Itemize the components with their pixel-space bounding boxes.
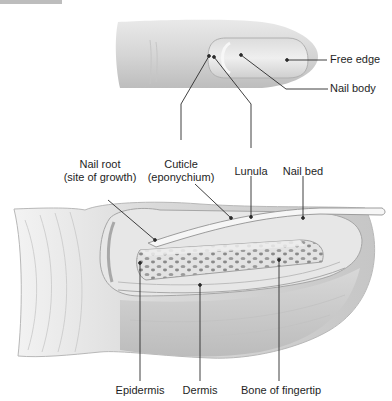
label-cuticle-line2: (eponychium) xyxy=(141,171,221,184)
label-dermis: Dermis xyxy=(176,384,224,397)
fingertip-cross-section xyxy=(14,202,385,358)
fingertip-top-view xyxy=(116,20,318,88)
label-bone: Bone of fingertip xyxy=(236,384,326,397)
label-cuticle: Cuticle (eponychium) xyxy=(141,158,221,184)
label-cuticle-line1: Cuticle xyxy=(141,158,221,171)
label-lunula: Lunula xyxy=(226,165,276,178)
label-nail-bed: Nail bed xyxy=(280,165,326,178)
label-nail-body: Nail body xyxy=(330,82,376,95)
label-nail-root: Nail root (site of growth) xyxy=(50,158,150,184)
label-free-edge: Free edge xyxy=(330,53,380,66)
label-nail-root-line2: (site of growth) xyxy=(50,171,150,184)
label-nail-root-line1: Nail root xyxy=(50,158,150,171)
label-epidermis: Epidermis xyxy=(110,384,170,397)
